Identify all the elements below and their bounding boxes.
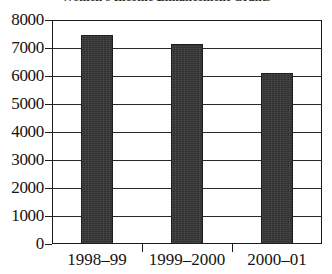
- y-axis-label: 1000: [11, 207, 44, 224]
- y-axis-label: 8000: [11, 11, 44, 28]
- bar: [81, 35, 113, 244]
- y-axis-tick: [45, 76, 52, 77]
- y-axis-tick: [45, 48, 52, 49]
- x-axis-label: 2000–01: [232, 250, 322, 269]
- x-axis-label: 1999–2000: [142, 250, 232, 269]
- chart-title: Women's Income Enhancement Grants: [0, 0, 332, 4]
- bar: [171, 44, 203, 244]
- y-axis-tick: [45, 216, 52, 217]
- y-axis-label: 4000: [11, 123, 44, 140]
- y-axis-tick: [45, 244, 52, 245]
- y-axis-tick: [45, 104, 52, 105]
- y-axis-tick: [45, 132, 52, 133]
- y-axis-label: 2000: [11, 179, 44, 196]
- y-axis-label: 5000: [11, 95, 44, 112]
- y-axis-tick: [45, 188, 52, 189]
- y-axis-tick: [45, 20, 52, 21]
- y-axis-label: 7000: [11, 39, 44, 56]
- bar: [261, 73, 293, 244]
- y-axis-label: 3000: [11, 151, 44, 168]
- y-axis-label: 0: [36, 235, 44, 252]
- y-axis-label: 6000: [11, 67, 44, 84]
- y-axis-tick: [45, 160, 52, 161]
- x-axis-label: 1998–99: [52, 250, 142, 269]
